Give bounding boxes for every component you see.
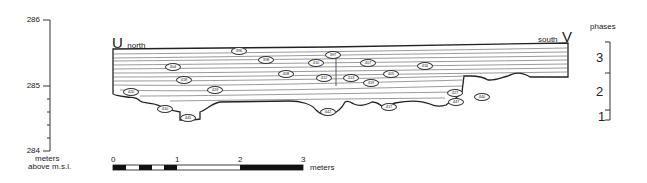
layer-label: 397 <box>325 51 341 59</box>
layer-label: 418 <box>176 76 192 84</box>
layer-label: 410 <box>308 59 324 67</box>
layer-label: 407 <box>360 59 376 67</box>
layer-label: 417 <box>381 103 397 111</box>
section-letter-u: U <box>112 34 123 51</box>
phase-1-label: 1 <box>598 109 605 124</box>
layer-label: 404 <box>165 63 181 71</box>
layer-label: 413 <box>343 74 359 82</box>
elevation-unit-sublabel: above m.s.l. <box>28 162 71 171</box>
layer-label: 412 <box>316 74 332 82</box>
layer-label: 416 <box>417 62 433 70</box>
scale-tick-2: 2 <box>238 155 242 164</box>
phases-title: phases <box>590 22 616 31</box>
elevation-label-286: 286 <box>10 15 40 24</box>
elevation-label-285: 285 <box>10 81 40 90</box>
south-end-marker: south V <box>538 28 572 46</box>
south-label: south <box>538 35 558 44</box>
layer-label: 408 <box>278 70 294 78</box>
section-letter-v: V <box>562 28 572 45</box>
north-end-marker: U north <box>112 34 146 52</box>
layer-label: 419 <box>363 79 379 87</box>
layer-label: 447 <box>448 98 464 106</box>
layer-label: 440 <box>474 93 490 101</box>
north-label: north <box>127 41 145 50</box>
layer-label: 410 <box>157 105 173 113</box>
scale-tick-0: 0 <box>111 155 115 164</box>
scale-tick-3: 3 <box>301 155 305 164</box>
scale-tick-1: 1 <box>175 155 179 164</box>
phase-2-label: 2 <box>596 84 603 99</box>
phase-3-label: 3 <box>596 50 603 65</box>
layer-label: 423 <box>207 86 223 94</box>
layer-label: 405 <box>383 70 399 78</box>
layer-label: 427 <box>447 89 463 97</box>
layer-label: 445 <box>180 114 196 122</box>
layer-label: 396 <box>231 47 247 55</box>
layer-label: 420 <box>123 88 139 96</box>
layer-label: 398 <box>258 56 274 64</box>
scale-unit: meters <box>310 163 334 172</box>
layer-label: 442 <box>320 108 336 116</box>
